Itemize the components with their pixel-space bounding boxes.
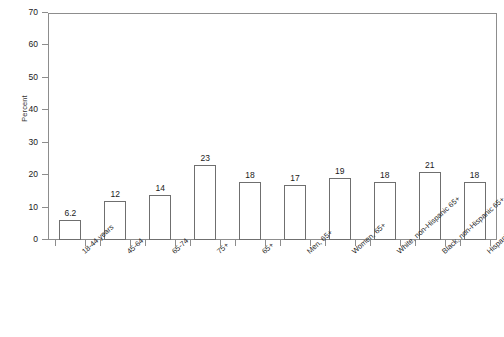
x-axis-label: White, non-Hispanic 65+ <box>395 249 401 256</box>
bar-value-label: 21 <box>410 160 450 170</box>
bar-value-label: 17 <box>275 173 315 183</box>
bar <box>239 182 261 240</box>
y-tick-label: 10 <box>0 202 38 212</box>
y-tick-mark <box>42 77 48 78</box>
x-tick-mark <box>190 240 191 246</box>
bar <box>284 185 306 240</box>
bar-value-label: 6.2 <box>50 208 90 218</box>
y-tick-mark <box>42 174 48 175</box>
x-tick-mark <box>55 240 56 246</box>
bar-chart: Percent 010203040506070 6.21214231817191… <box>0 0 504 337</box>
x-tick-mark <box>280 240 281 246</box>
y-tick-label: 0 <box>0 234 38 244</box>
x-axis-label: 45-64 <box>125 249 131 256</box>
x-tick-mark <box>235 240 236 246</box>
y-tick-label: 70 <box>0 7 38 17</box>
x-axis-label: 18-44 years <box>80 249 86 256</box>
bar-value-label: 12 <box>95 189 135 199</box>
x-axis-label: Women, 65+ <box>350 249 356 256</box>
y-tick-mark <box>42 207 48 208</box>
bar <box>329 178 351 240</box>
y-tick-label: 60 <box>0 39 38 49</box>
y-tick-label: 30 <box>0 137 38 147</box>
y-tick-label: 40 <box>0 104 38 114</box>
bar <box>59 220 81 240</box>
x-axis-label: Men, 65+ <box>305 249 311 256</box>
bar <box>149 195 171 240</box>
y-tick-mark <box>42 109 48 110</box>
x-axis-label: 65-74 <box>170 249 176 256</box>
x-axis-label: Hispanic 65+ <box>485 249 491 256</box>
bar-value-label: 18 <box>365 170 405 180</box>
y-tick-mark <box>42 12 48 13</box>
bar-value-label: 18 <box>455 170 495 180</box>
bar <box>194 165 216 240</box>
y-tick-label: 50 <box>0 72 38 82</box>
bar-value-label: 18 <box>230 170 270 180</box>
y-tick-mark <box>42 142 48 143</box>
bar-value-label: 19 <box>320 166 360 176</box>
x-axis-label: 65+ <box>260 249 266 256</box>
bar-value-label: 23 <box>185 153 225 163</box>
x-axis-label: Black, non-Hispanic 65+ <box>440 249 446 256</box>
y-tick-mark <box>42 44 48 45</box>
y-tick-mark <box>42 239 48 240</box>
x-tick-mark <box>145 240 146 246</box>
x-axis-label: 75+ <box>215 249 221 256</box>
y-tick-label: 20 <box>0 169 38 179</box>
bar-value-label: 14 <box>140 183 180 193</box>
